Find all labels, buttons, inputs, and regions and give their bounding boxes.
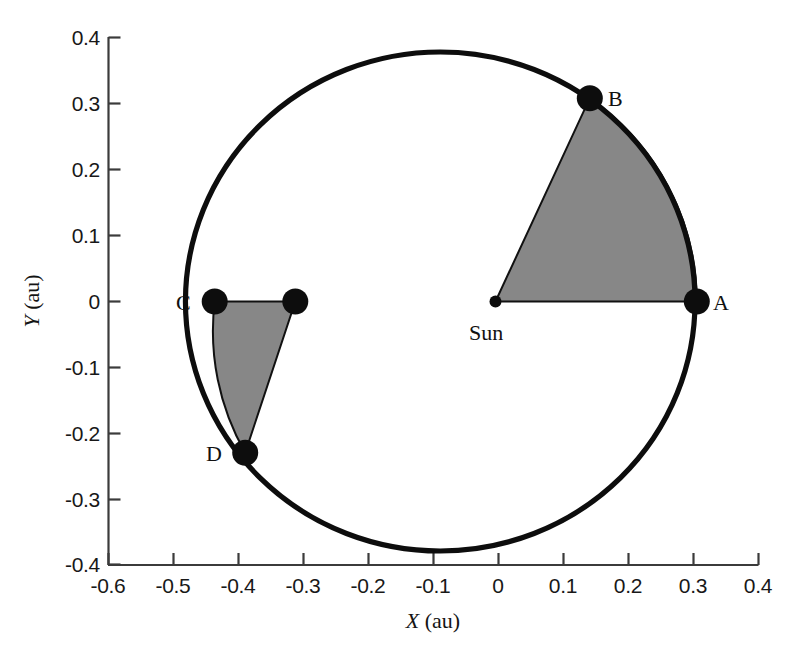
point-label-sun: Sun [469, 320, 503, 346]
y-tick-label-0: 0.4 [44, 26, 100, 50]
x-tick-label-4: -0.2 [351, 574, 386, 598]
marker-c [202, 289, 228, 315]
shaded-sector-c-d [213, 302, 295, 453]
y-axis-title: Y (au) [19, 274, 45, 327]
x-tick-label-10: 0.4 [744, 574, 772, 598]
x-tick-label-0: -0.6 [91, 574, 126, 598]
y-tick-label-2: 0.2 [44, 158, 100, 182]
point-label-d: D [206, 441, 222, 467]
y-axis-ticks [109, 38, 121, 565]
x-axis-title-unit: (au) [419, 608, 460, 633]
y-tick-label-8: -0.4 [44, 553, 100, 577]
plot-canvas [0, 0, 800, 666]
y-tick-label-5: -0.1 [44, 356, 100, 380]
marker-d [232, 440, 258, 466]
marker-c-end [282, 289, 308, 315]
x-tick-label-5: -0.1 [416, 574, 451, 598]
x-tick-label-1: -0.5 [156, 574, 191, 598]
y-tick-label-1: 0.3 [44, 92, 100, 116]
x-axis-title: X (au) [406, 608, 460, 634]
y-tick-label-3: 0.1 [44, 224, 100, 248]
orbit-figure: -0.6 -0.5 -0.4 -0.3 -0.2 -0.1 0 0.1 0.2 … [0, 0, 800, 666]
marker-b [577, 85, 603, 111]
x-tick-label-2: -0.4 [221, 574, 256, 598]
y-axis-title-var: Y [19, 315, 44, 327]
y-tick-label-6: -0.2 [44, 422, 100, 446]
x-tick-label-7: 0.1 [549, 574, 577, 598]
point-label-a: A [713, 290, 729, 316]
y-axis-title-unit: (au) [19, 274, 44, 315]
x-tick-label-8: 0.2 [614, 574, 642, 598]
shaded-sector-sun-a-b [496, 98, 697, 301]
marker-a [684, 289, 710, 315]
x-tick-label-9: 0.3 [679, 574, 707, 598]
x-tick-label-6: 0 [492, 574, 503, 598]
marker-sun [490, 296, 502, 308]
y-tick-label-4: 0 [44, 290, 100, 314]
x-tick-label-3: -0.3 [286, 574, 321, 598]
point-label-b: B [608, 86, 623, 112]
x-axis-title-var: X [406, 608, 419, 633]
y-tick-label-7: -0.3 [44, 488, 100, 512]
point-label-c: C [176, 290, 191, 316]
x-axis-ticks [109, 553, 759, 565]
